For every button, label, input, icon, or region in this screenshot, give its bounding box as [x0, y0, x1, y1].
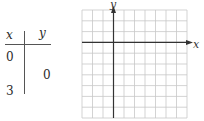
- y-axis-label: y: [109, 0, 117, 11]
- coordinate-grid: x y: [0, 0, 204, 121]
- x-axis-arrowhead-icon: [186, 40, 193, 45]
- x-axis-label: x: [193, 38, 200, 51]
- grid-lines: [82, 10, 187, 118]
